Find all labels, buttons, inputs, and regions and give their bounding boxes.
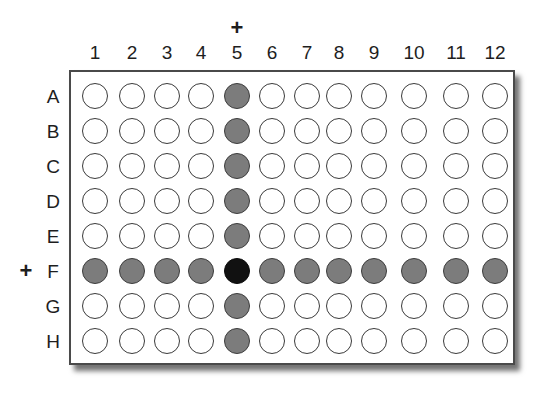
well-C3[interactable] xyxy=(154,153,180,179)
well-D8[interactable] xyxy=(326,188,352,214)
well-F4[interactable] xyxy=(188,258,214,284)
well-H10[interactable] xyxy=(401,328,427,354)
well-D3[interactable] xyxy=(154,188,180,214)
well-C8[interactable] xyxy=(326,153,352,179)
column-label: 2 xyxy=(127,43,138,62)
well-H5[interactable] xyxy=(224,328,250,354)
well-A6[interactable] xyxy=(259,83,285,109)
well-G5[interactable] xyxy=(224,293,250,319)
well-C12[interactable] xyxy=(482,153,508,179)
well-C7[interactable] xyxy=(294,153,320,179)
well-F8[interactable] xyxy=(326,258,352,284)
well-B2[interactable] xyxy=(119,118,145,144)
well-C1[interactable] xyxy=(82,153,108,179)
well-H7[interactable] xyxy=(294,328,320,354)
well-C5[interactable] xyxy=(224,153,250,179)
well-C11[interactable] xyxy=(443,153,469,179)
well-G1[interactable] xyxy=(82,293,108,319)
well-F3[interactable] xyxy=(154,258,180,284)
well-H2[interactable] xyxy=(119,328,145,354)
well-D5[interactable] xyxy=(224,188,250,214)
well-E2[interactable] xyxy=(119,223,145,249)
well-E3[interactable] xyxy=(154,223,180,249)
well-G9[interactable] xyxy=(361,293,387,319)
well-D1[interactable] xyxy=(82,188,108,214)
well-F2[interactable] xyxy=(119,258,145,284)
well-A11[interactable] xyxy=(443,83,469,109)
well-F5[interactable] xyxy=(224,258,250,284)
well-D12[interactable] xyxy=(482,188,508,214)
well-G2[interactable] xyxy=(119,293,145,319)
well-A7[interactable] xyxy=(294,83,320,109)
well-H3[interactable] xyxy=(154,328,180,354)
well-F6[interactable] xyxy=(259,258,285,284)
well-B6[interactable] xyxy=(259,118,285,144)
well-G6[interactable] xyxy=(259,293,285,319)
well-A8[interactable] xyxy=(326,83,352,109)
well-E6[interactable] xyxy=(259,223,285,249)
well-C4[interactable] xyxy=(188,153,214,179)
well-E11[interactable] xyxy=(443,223,469,249)
well-C10[interactable] xyxy=(401,153,427,179)
well-H1[interactable] xyxy=(82,328,108,354)
well-C9[interactable] xyxy=(361,153,387,179)
well-G7[interactable] xyxy=(294,293,320,319)
well-B11[interactable] xyxy=(443,118,469,144)
well-F7[interactable] xyxy=(294,258,320,284)
well-A12[interactable] xyxy=(482,83,508,109)
well-F12[interactable] xyxy=(482,258,508,284)
plate-body xyxy=(69,70,515,365)
well-D10[interactable] xyxy=(401,188,427,214)
well-D2[interactable] xyxy=(119,188,145,214)
well-G12[interactable] xyxy=(482,293,508,319)
well-D9[interactable] xyxy=(361,188,387,214)
well-B10[interactable] xyxy=(401,118,427,144)
column-marker-plus-icon: + xyxy=(231,17,244,39)
well-G10[interactable] xyxy=(401,293,427,319)
well-E1[interactable] xyxy=(82,223,108,249)
well-A3[interactable] xyxy=(154,83,180,109)
well-E9[interactable] xyxy=(361,223,387,249)
well-B5[interactable] xyxy=(224,118,250,144)
well-H12[interactable] xyxy=(482,328,508,354)
well-D6[interactable] xyxy=(259,188,285,214)
well-H9[interactable] xyxy=(361,328,387,354)
well-E10[interactable] xyxy=(401,223,427,249)
well-A9[interactable] xyxy=(361,83,387,109)
well-B4[interactable] xyxy=(188,118,214,144)
well-F10[interactable] xyxy=(401,258,427,284)
well-A10[interactable] xyxy=(401,83,427,109)
well-H8[interactable] xyxy=(326,328,352,354)
well-D11[interactable] xyxy=(443,188,469,214)
well-E4[interactable] xyxy=(188,223,214,249)
well-G8[interactable] xyxy=(326,293,352,319)
well-B12[interactable] xyxy=(482,118,508,144)
well-H6[interactable] xyxy=(259,328,285,354)
well-E12[interactable] xyxy=(482,223,508,249)
well-D7[interactable] xyxy=(294,188,320,214)
well-A2[interactable] xyxy=(119,83,145,109)
well-A5[interactable] xyxy=(224,83,250,109)
well-G3[interactable] xyxy=(154,293,180,319)
well-F11[interactable] xyxy=(443,258,469,284)
well-D4[interactable] xyxy=(188,188,214,214)
well-H11[interactable] xyxy=(443,328,469,354)
well-A4[interactable] xyxy=(188,83,214,109)
well-A1[interactable] xyxy=(82,83,108,109)
well-G4[interactable] xyxy=(188,293,214,319)
well-H4[interactable] xyxy=(188,328,214,354)
well-B7[interactable] xyxy=(294,118,320,144)
well-C2[interactable] xyxy=(119,153,145,179)
well-B8[interactable] xyxy=(326,118,352,144)
well-E5[interactable] xyxy=(224,223,250,249)
well-C6[interactable] xyxy=(259,153,285,179)
well-G11[interactable] xyxy=(443,293,469,319)
well-B3[interactable] xyxy=(154,118,180,144)
well-B1[interactable] xyxy=(82,118,108,144)
well-E8[interactable] xyxy=(326,223,352,249)
well-F9[interactable] xyxy=(361,258,387,284)
well-E7[interactable] xyxy=(294,223,320,249)
row-marker-plus-icon: + xyxy=(20,260,33,282)
well-F1[interactable] xyxy=(82,258,108,284)
well-B9[interactable] xyxy=(361,118,387,144)
